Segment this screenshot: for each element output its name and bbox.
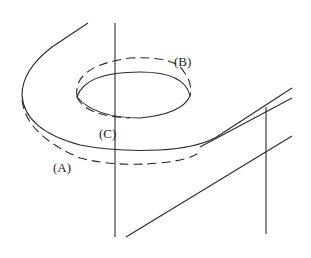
label-a: (A) [53, 161, 71, 174]
top-face-outer-edge [22, 23, 292, 150]
diagram-canvas [0, 0, 311, 258]
top-face-thickness-edge [200, 98, 292, 147]
bottom-diagonal-line [126, 136, 292, 237]
hole-hidden-ellipse-B-lower [77, 97, 130, 118]
label-b: (B) [174, 55, 191, 68]
label-c: (C) [99, 127, 116, 140]
